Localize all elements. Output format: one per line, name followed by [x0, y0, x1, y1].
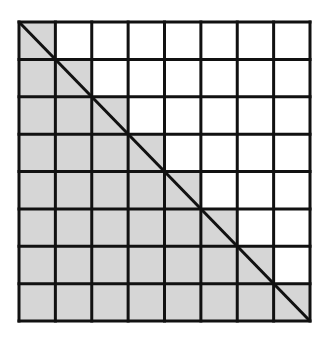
shaded-cell: [19, 246, 55, 283]
shaded-cell: [19, 209, 55, 246]
empty-cell: [201, 134, 237, 171]
shaded-cell: [19, 97, 55, 134]
empty-cell: [237, 97, 273, 134]
shaded-cell: [19, 284, 55, 321]
shaded-cell: [92, 284, 128, 321]
empty-cell: [237, 209, 273, 246]
shaded-cell: [19, 134, 55, 171]
shaded-cell: [128, 284, 164, 321]
shaded-cell: [55, 209, 91, 246]
empty-cell: [274, 246, 310, 283]
shaded-cell: [55, 134, 91, 171]
empty-cell: [237, 22, 273, 59]
shaded-cell: [55, 97, 91, 134]
shaded-cell: [165, 246, 201, 283]
shaded-cell: [92, 172, 128, 209]
shaded-cell: [55, 284, 91, 321]
shaded-cell: [19, 172, 55, 209]
empty-cell: [201, 97, 237, 134]
empty-cell: [274, 97, 310, 134]
shaded-cell: [92, 246, 128, 283]
empty-cell: [274, 59, 310, 96]
shaded-cell: [55, 246, 91, 283]
empty-cell: [128, 22, 164, 59]
shaded-cell: [19, 59, 55, 96]
empty-cell: [165, 97, 201, 134]
shaded-cell: [128, 246, 164, 283]
empty-cell: [237, 134, 273, 171]
shaded-cell: [92, 134, 128, 171]
shaded-cell: [165, 209, 201, 246]
shaded-cell: [128, 209, 164, 246]
empty-cell: [165, 59, 201, 96]
empty-cell: [201, 172, 237, 209]
shaded-cell: [128, 172, 164, 209]
empty-cell: [274, 172, 310, 209]
empty-cell: [128, 97, 164, 134]
empty-cell: [274, 134, 310, 171]
shaded-cell: [201, 284, 237, 321]
empty-cell: [237, 172, 273, 209]
shaded-cell: [92, 209, 128, 246]
shaded-cell: [237, 284, 273, 321]
empty-cell: [92, 22, 128, 59]
empty-cell: [92, 59, 128, 96]
empty-cell: [201, 22, 237, 59]
empty-cell: [274, 22, 310, 59]
empty-cell: [274, 209, 310, 246]
empty-cell: [237, 59, 273, 96]
empty-cell: [165, 22, 201, 59]
empty-cell: [201, 59, 237, 96]
shaded-cell: [201, 246, 237, 283]
empty-cell: [55, 22, 91, 59]
empty-cell: [128, 59, 164, 96]
grid-diagram: [0, 0, 323, 345]
shaded-cell: [55, 172, 91, 209]
empty-cell: [165, 134, 201, 171]
shaded-cell: [165, 284, 201, 321]
